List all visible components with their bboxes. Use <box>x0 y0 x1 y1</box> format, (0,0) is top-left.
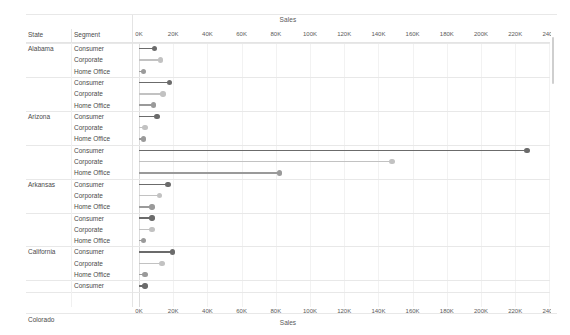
header-divider-state <box>71 29 72 43</box>
value-dot[interactable] <box>142 283 147 288</box>
axis-tick-label-bottom: 100K <box>303 308 317 314</box>
value-dot[interactable] <box>524 148 529 153</box>
value-dot[interactable] <box>149 215 154 220</box>
value-dot[interactable] <box>389 159 394 164</box>
table-row[interactable]: Corporate <box>26 54 550 65</box>
row-segment-label[interactable]: Consumer <box>74 145 104 156</box>
table-row[interactable]: DelawareConsumer <box>26 246 550 257</box>
table-row[interactable]: ArizonaConsumer <box>26 77 550 88</box>
axis-tick-label-bottom: 60K <box>236 308 247 314</box>
row-segment-label[interactable]: Corporate <box>74 156 103 167</box>
table-row[interactable]: Home Office <box>26 100 550 111</box>
sales-dot-plot-visualization: Sales State Segment 0K20K40K60K80K100K12… <box>0 0 570 335</box>
axis-tick-label-top: 20K <box>168 31 179 37</box>
table-row[interactable]: AlabamaConsumer <box>26 43 550 54</box>
row-segment-label[interactable]: Consumer <box>74 179 104 190</box>
value-dot[interactable] <box>154 114 159 119</box>
value-dot[interactable] <box>152 46 157 51</box>
table-row[interactable]: Home Office <box>26 133 550 144</box>
row-segment-label[interactable]: Home Office <box>74 235 110 246</box>
row-segment-label[interactable]: Home Office <box>74 269 110 280</box>
table-row[interactable]: Home Office <box>26 235 550 246</box>
axis-tick-label-top: 220K <box>508 31 522 37</box>
row-segment-label[interactable]: Home Office <box>74 133 110 144</box>
axis-tick-label-top: 120K <box>337 31 351 37</box>
table-row[interactable]: Home Office <box>26 269 550 280</box>
value-dot[interactable] <box>165 182 170 187</box>
table-row[interactable]: District ofColumbiaConsumer <box>26 280 550 291</box>
row-segment-label[interactable]: Corporate <box>74 54 103 65</box>
table-row[interactable]: Corporate <box>26 88 550 99</box>
row-segment-label[interactable]: Home Office <box>74 201 110 212</box>
row-segment-label[interactable]: Home Office <box>74 100 110 111</box>
value-dot[interactable] <box>170 249 175 254</box>
value-stem <box>139 251 172 252</box>
table-row[interactable]: ConnecticutConsumer <box>26 213 550 224</box>
value-dot[interactable] <box>167 80 172 85</box>
row-segment-label[interactable]: Corporate <box>74 88 103 99</box>
value-dot[interactable] <box>141 69 146 74</box>
axis-title-top: Sales <box>26 16 550 23</box>
axis-tick-label-bottom: 140K <box>371 308 385 314</box>
value-dot[interactable] <box>149 227 154 232</box>
value-dot[interactable] <box>160 91 165 96</box>
table-row[interactable]: Corporate <box>26 258 550 269</box>
row-segment-label[interactable]: Corporate <box>74 190 103 201</box>
value-dot[interactable] <box>159 261 164 266</box>
row-segment-label[interactable]: Corporate <box>74 258 103 269</box>
axis-tick-label-bottom: 120K <box>337 308 351 314</box>
value-dot[interactable] <box>142 125 147 130</box>
header-divider-segment <box>132 15 133 43</box>
table-row[interactable]: Corporate <box>26 190 550 201</box>
row-state-label[interactable]: Alabama <box>28 45 54 53</box>
value-dot[interactable] <box>142 272 147 277</box>
axis-tick-label-top: 160K <box>406 31 420 37</box>
value-stem <box>139 184 168 185</box>
value-dot[interactable] <box>158 57 163 62</box>
axis-tick-label-top: 200K <box>474 31 488 37</box>
row-segment-label[interactable]: Consumer <box>74 280 104 291</box>
value-dot[interactable] <box>149 204 154 209</box>
axis-tick-label-bottom: 0K <box>135 308 142 314</box>
table-row[interactable]: CaliforniaConsumer <box>26 145 550 156</box>
table-row[interactable]: Home Office <box>26 201 550 212</box>
value-dot[interactable] <box>157 193 162 198</box>
axis-tick-label-bottom: 40K <box>202 308 213 314</box>
row-segment-label[interactable]: Consumer <box>74 246 104 257</box>
row-segment-label[interactable]: Consumer <box>74 43 104 54</box>
table-row[interactable]: ArkansasConsumer <box>26 111 550 122</box>
row-segment-label[interactable]: Home Office <box>74 167 110 178</box>
value-dot[interactable] <box>151 102 156 107</box>
axis-tick-label-bottom: 80K <box>270 308 281 314</box>
table-row[interactable]: Corporate <box>26 122 550 133</box>
table-row[interactable]: ColoradoConsumer <box>26 179 550 190</box>
axis-tick-label-bottom: 220K <box>508 308 522 314</box>
axis-tick-label-bottom: 20K <box>168 308 179 314</box>
column-header-segment[interactable]: Segment <box>74 31 100 38</box>
row-segment-label[interactable]: Consumer <box>74 77 104 88</box>
column-header-state[interactable]: State <box>28 31 43 38</box>
vertical-scrollbar-thumb[interactable] <box>552 37 554 84</box>
row-segment-label[interactable]: Home Office <box>74 66 110 77</box>
table-row[interactable]: Corporate <box>26 156 550 167</box>
table-row[interactable]: Home Office <box>26 167 550 178</box>
state-column-divider <box>71 43 72 307</box>
segment-column-divider <box>132 43 133 307</box>
value-stem <box>139 150 527 151</box>
table-row[interactable]: Home Office <box>26 66 550 77</box>
axis-tick-label-top: 80K <box>270 31 281 37</box>
value-dot[interactable] <box>141 238 146 243</box>
row-segment-label[interactable]: Corporate <box>74 122 103 133</box>
chart-panel: Sales State Segment 0K20K40K60K80K100K12… <box>26 15 550 313</box>
value-dot[interactable] <box>141 136 146 141</box>
value-dot[interactable] <box>277 170 282 175</box>
row-segment-label[interactable]: Consumer <box>74 111 104 122</box>
axis-tick-label-top: 100K <box>303 31 317 37</box>
row-segment-label[interactable]: Corporate <box>74 224 103 235</box>
axis-tick-label-bottom: 160K <box>406 308 420 314</box>
axis-tick-label-top: 140K <box>371 31 385 37</box>
row-segment-label[interactable]: Consumer <box>74 213 104 224</box>
axis-tick-label-top: 180K <box>440 31 454 37</box>
data-rows-container: AlabamaConsumerCorporateHome OfficeArizo… <box>26 43 550 307</box>
table-row[interactable]: Corporate <box>26 224 550 235</box>
